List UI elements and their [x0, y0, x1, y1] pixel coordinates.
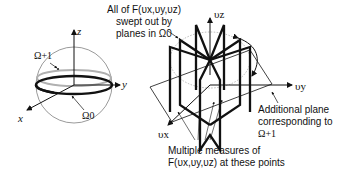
- vx-axis: [168, 85, 210, 125]
- z-axis-label: z: [77, 25, 81, 37]
- side-annotation-line1: Additional plane: [258, 104, 333, 116]
- omega-plus-label: Ω+1: [34, 50, 52, 62]
- vx-axis-label: υx: [158, 128, 169, 140]
- bottom-annotation-line2: F(υx,υy,υz) at these points: [168, 157, 285, 169]
- x-axis: [27, 85, 74, 110]
- vz-axis-label: υz: [214, 8, 224, 20]
- top-annotation: All of F(υx,υy,υz) swept out by planes i…: [98, 4, 190, 40]
- y-axis-label: y: [122, 78, 127, 90]
- top-annotation-line1: All of F(υx,υy,υz): [98, 4, 190, 16]
- sphere-diagram: [27, 30, 120, 123]
- side-annotation-line3: Ω+1: [258, 128, 333, 140]
- top-annotation-line2: swept out by: [98, 16, 190, 28]
- side-annotation: Additional plane corresponding to Ω+1: [258, 104, 333, 140]
- top-annotation-line3: planes in Ω0: [98, 28, 190, 40]
- side-annotation-line2: corresponding to: [258, 116, 333, 128]
- omega-zero-label: Ω0: [82, 110, 94, 122]
- x-axis-label: x: [18, 112, 23, 124]
- vy-axis-label: υy: [295, 80, 306, 92]
- bottom-annotation: Multiple measures of F(υx,υy,υz) at thes…: [168, 145, 285, 169]
- bottom-annotation-line1: Multiple measures of: [168, 145, 285, 157]
